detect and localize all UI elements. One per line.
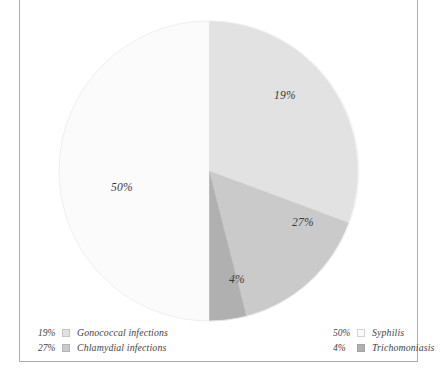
figure-frame: 50% 19% 27% 4% 19% Gonococcal infections… xyxy=(19,0,418,362)
legend-swatch-icon xyxy=(62,344,70,352)
legend-label: Trichomoniasis xyxy=(372,342,435,353)
pie-chart: 50% 19% 27% 4% xyxy=(20,0,419,322)
legend-percent: 4% xyxy=(333,343,355,353)
legend-percent: 19% xyxy=(38,328,60,338)
legend-item-syphilis[interactable]: 50% Syphilis xyxy=(333,326,435,339)
pie-label-trichomoniasis: 4% xyxy=(229,273,245,285)
pie-label-chlamydial: 27% xyxy=(292,216,314,228)
legend-column-right: 50% Syphilis 4% Trichomoniasis xyxy=(333,326,435,356)
legend-item-trichomoniasis[interactable]: 4% Trichomoniasis xyxy=(333,341,435,354)
legend-swatch-icon xyxy=(62,329,70,337)
legend-label: Gonococcal infections xyxy=(77,327,168,338)
legend-swatch-icon xyxy=(357,344,365,352)
legend-swatch-icon xyxy=(357,329,365,337)
chart-legend: 19% Gonococcal infections 27% Chlamydial… xyxy=(20,322,419,360)
legend-percent: 50% xyxy=(333,328,355,338)
pie-label-syphilis: 50% xyxy=(111,181,133,193)
pie-slice-syphilis[interactable] xyxy=(59,21,209,321)
pie-label-gonococcal: 19% xyxy=(274,89,296,101)
legend-item-chlamydial[interactable]: 27% Chlamydial infections xyxy=(38,341,168,354)
legend-label: Syphilis xyxy=(372,327,404,338)
legend-item-gonococcal[interactable]: 19% Gonococcal infections xyxy=(38,326,168,339)
legend-percent: 27% xyxy=(38,343,60,353)
legend-column-left: 19% Gonococcal infections 27% Chlamydial… xyxy=(38,326,168,356)
pie-chart-svg xyxy=(20,0,419,322)
legend-label: Chlamydial infections xyxy=(77,342,166,353)
